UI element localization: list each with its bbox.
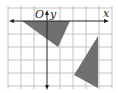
origin-label: O	[35, 8, 44, 21]
y-axis-label: y	[49, 8, 57, 21]
coordinate-plane: O y x	[0, 0, 118, 93]
x-axis-label: x	[103, 7, 110, 20]
